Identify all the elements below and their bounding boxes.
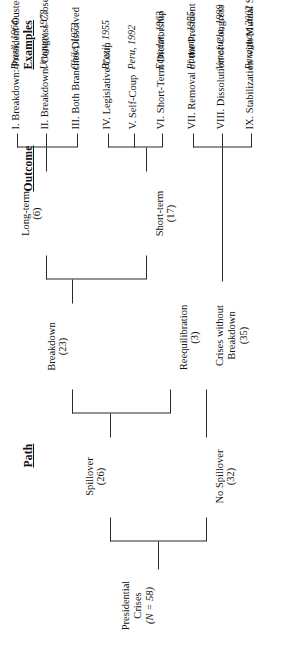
edge-breakdown-out bbox=[72, 279, 73, 303]
node-reequilibration-count: (3) bbox=[189, 285, 200, 389]
example-label-7: Panama, 1955 bbox=[186, 11, 197, 69]
root-label-line1: Presidential bbox=[120, 580, 131, 630]
node-reequilibration-label: Reequilibration bbox=[178, 304, 189, 369]
node-spillover-count: (26) bbox=[95, 437, 106, 515]
example-label-2: Uruguay, 1973 bbox=[39, 9, 50, 69]
example-label-1: Brazil, 1964 bbox=[10, 20, 21, 69]
root-node: Presidential Crises (N = 58) bbox=[120, 569, 156, 641]
edge-to-breakdown bbox=[72, 389, 73, 413]
node-no-spillover: No Spillover (32) bbox=[214, 437, 236, 515]
example-label-5: Peru, 1992 bbox=[127, 25, 138, 69]
header-path: Path bbox=[22, 443, 34, 467]
root-label-line2: Crises bbox=[132, 592, 143, 618]
example-label-6: Ecuador, 1963 bbox=[155, 11, 166, 69]
edge-crises-out bbox=[222, 147, 223, 281]
example-label-9: Paraguay, 2002 bbox=[244, 5, 255, 69]
node-breakdown: Breakdown (23) bbox=[46, 303, 68, 389]
tree-diagram: Path Outcome Examples Presidential Crise… bbox=[0, 0, 294, 647]
edge-to-long-term bbox=[46, 255, 47, 279]
node-short-term-label: Short-term bbox=[154, 190, 165, 236]
edge-breakdown-split bbox=[46, 278, 146, 279]
bracket-b-spine bbox=[108, 146, 162, 147]
node-long-term-count: (6) bbox=[31, 171, 42, 255]
edge-to-short-term bbox=[146, 255, 147, 279]
node-spillover-label: Spillover bbox=[84, 457, 95, 496]
edge-spillover-out bbox=[110, 413, 111, 437]
bracket-a-arm-1 bbox=[17, 133, 18, 147]
edge-to-no-spillover bbox=[206, 517, 207, 541]
bracket-b-arm-3 bbox=[162, 133, 163, 147]
node-no-spillover-label: No Spillover bbox=[214, 449, 225, 503]
node-no-spillover-count: (32) bbox=[225, 437, 236, 515]
node-long-term: Long-term (6) bbox=[20, 171, 42, 255]
bracket-a-arm-2 bbox=[46, 133, 47, 147]
edge-to-reequilibration bbox=[170, 389, 171, 413]
outcome-label-5: V. Self-Coup bbox=[127, 74, 138, 129]
edge-short-term-out bbox=[146, 147, 147, 171]
node-crises-without-breakdown-label1: Crises without bbox=[214, 305, 225, 366]
root-count: (N = 58) bbox=[144, 587, 155, 624]
node-spillover: Spillover (26) bbox=[84, 437, 106, 515]
bracket-c-arm-2 bbox=[222, 133, 223, 147]
bracket-c-arm-1 bbox=[193, 133, 194, 147]
bracket-c-arm-3 bbox=[251, 133, 252, 147]
edge-no-spillover-out bbox=[206, 389, 207, 437]
example-label-3: Chile, 1973 bbox=[70, 22, 81, 69]
edge-spillover-split bbox=[72, 412, 170, 413]
node-reequilibration: Reequilibration (3) bbox=[178, 285, 200, 389]
node-crises-without-breakdown-label2: Breakdown bbox=[226, 311, 237, 359]
example-label-4: Brazil, 1955 bbox=[101, 20, 112, 69]
edge-root-split bbox=[110, 540, 206, 541]
node-crises-without-breakdown: Crises without Breakdown (35) bbox=[214, 281, 249, 389]
example-label-8: Venezuela, 1999 bbox=[215, 4, 226, 69]
node-short-term: Short-term (17) bbox=[154, 171, 176, 255]
node-breakdown-count: (23) bbox=[57, 303, 68, 389]
bracket-b-arm-1 bbox=[108, 133, 109, 147]
edge-long-term-out bbox=[46, 147, 47, 171]
node-short-term-count: (17) bbox=[165, 171, 176, 255]
bracket-a-spine bbox=[17, 146, 77, 147]
header-examples: Examples bbox=[22, 19, 34, 69]
bracket-a-arm-3 bbox=[77, 133, 78, 147]
edge-root-stem bbox=[158, 541, 159, 569]
node-long-term-label: Long-term bbox=[20, 191, 31, 236]
node-crises-without-breakdown-count: (35) bbox=[238, 281, 250, 389]
node-breakdown-label: Breakdown bbox=[46, 322, 57, 370]
bracket-b-arm-2 bbox=[134, 133, 135, 147]
edge-to-spillover bbox=[110, 517, 111, 541]
